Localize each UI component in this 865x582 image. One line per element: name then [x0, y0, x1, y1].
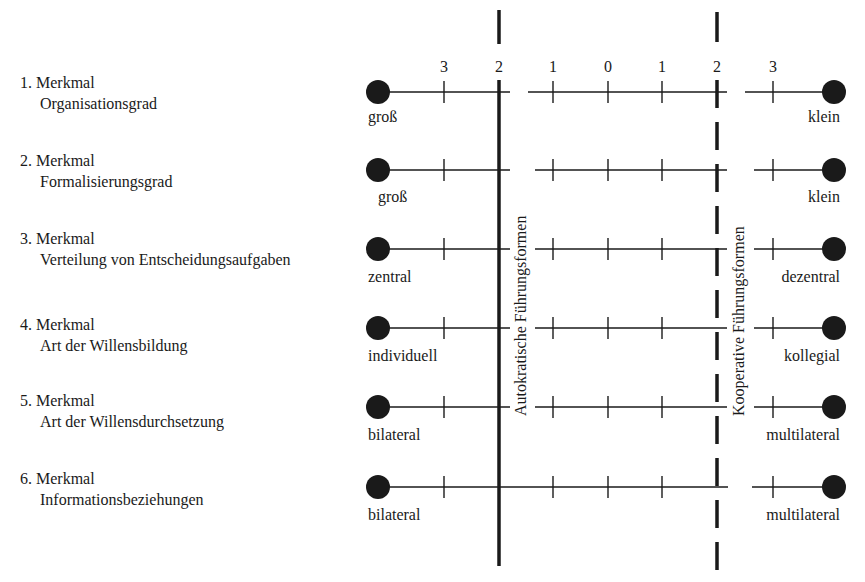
scale-tick-label: 2	[713, 58, 721, 76]
feature-4-left-pole: individuell	[368, 347, 437, 365]
feature-name: Informationsbeziehungen	[20, 489, 204, 510]
feature-name: Verteilung von Entscheidungsaufgaben	[20, 249, 291, 270]
feature-6-right-pole: multilateral	[766, 506, 840, 524]
feature-2-scale	[366, 158, 846, 182]
feature-1-label: 1. Merkmal Organisationsgrad	[20, 72, 157, 114]
feature-5-left-pole: bilateral	[368, 426, 420, 444]
scale-tick-label: 1	[658, 58, 666, 76]
feature-name: Formalisierungsgrad	[20, 171, 172, 192]
feature-1-scale	[366, 80, 846, 104]
feature-2-label: 2. Merkmal Formalisierungsgrad	[20, 150, 172, 192]
right-pole-dot	[822, 158, 846, 182]
scale-tick-label: 0	[604, 58, 612, 76]
feature-5-scale	[366, 395, 846, 419]
feature-3-right-pole: dezentral	[781, 268, 840, 286]
feature-6-label: 6. Merkmal Informationsbeziehungen	[20, 468, 204, 510]
feature-4-scale	[366, 316, 846, 340]
left-pole-dot	[366, 158, 390, 182]
scale-tick-label: 3	[440, 58, 448, 76]
feature-5-label: 5. Merkmal Art der Willensdurchsetzung	[20, 390, 224, 432]
feature-6-scale	[366, 475, 846, 499]
right-pole-dot	[822, 475, 846, 499]
feature-number: 4. Merkmal	[20, 316, 95, 333]
right-pole-dot	[822, 237, 846, 261]
feature-name: Art der Willensdurchsetzung	[20, 411, 224, 432]
feature-4-label: 4. Merkmal Art der Willensbildung	[20, 314, 187, 356]
feature-number: 6. Merkmal	[20, 470, 95, 487]
feature-name: Organisationsgrad	[20, 93, 157, 114]
right-pole-dot	[822, 316, 846, 340]
autocratic-zone-label: Autokratische Führungsformen	[512, 216, 530, 416]
feature-3-label: 3. Merkmal Verteilung von Entscheidungsa…	[20, 228, 291, 270]
right-pole-dot	[822, 395, 846, 419]
scale-tick-label: 3	[769, 58, 777, 76]
feature-5-right-pole: multilateral	[766, 426, 840, 444]
feature-6-left-pole: bilateral	[368, 506, 420, 524]
feature-3-scale	[366, 237, 846, 261]
feature-1-right-pole: klein	[808, 108, 840, 126]
left-pole-dot	[366, 316, 390, 340]
feature-2-right-pole: klein	[808, 188, 840, 206]
feature-2-left-pole: groß	[378, 188, 407, 206]
feature-1-left-pole: groß	[368, 108, 397, 126]
left-pole-dot	[366, 237, 390, 261]
feature-name: Art der Willensbildung	[20, 335, 187, 356]
right-pole-dot	[822, 80, 846, 104]
feature-number: 1. Merkmal	[20, 74, 95, 91]
scale-tick-label: 1	[549, 58, 557, 76]
feature-3-left-pole: zentral	[368, 268, 412, 286]
feature-number: 5. Merkmal	[20, 392, 95, 409]
feature-number: 3. Merkmal	[20, 230, 95, 247]
left-pole-dot	[366, 475, 390, 499]
feature-number: 2. Merkmal	[20, 152, 95, 169]
left-pole-dot	[366, 80, 390, 104]
scale-tick-label: 2	[495, 58, 503, 76]
left-pole-dot	[366, 395, 390, 419]
feature-4-right-pole: kollegial	[784, 347, 840, 365]
cooperative-zone-label: Kooperative Führungsformen	[730, 226, 748, 416]
